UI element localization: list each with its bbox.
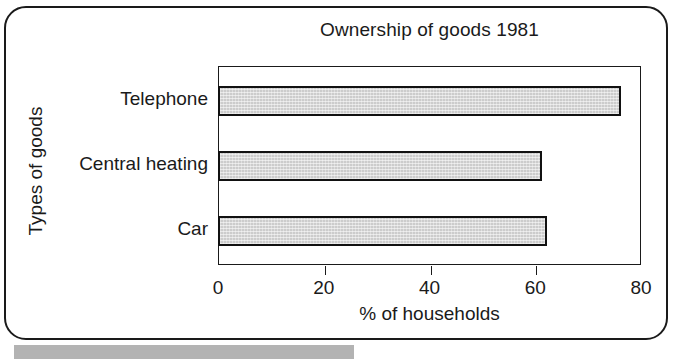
x-tick-label-40: 40 <box>400 277 460 299</box>
page-shadow-strip <box>14 345 354 359</box>
plot-area <box>218 66 641 265</box>
category-label-telephone: Telephone <box>8 88 208 110</box>
x-tick-label-0: 0 <box>188 277 248 299</box>
x-axis-title: % of households <box>218 303 641 325</box>
category-label-central-heating: Central heating <box>8 153 208 175</box>
category-label-car: Car <box>8 218 208 240</box>
x-tick-label-20: 20 <box>294 277 354 299</box>
x-tick-60 <box>536 266 537 275</box>
plot-inner <box>219 67 640 264</box>
chart-title: Ownership of goods 1981 <box>218 19 641 41</box>
chart-figure: Ownership of goods 1981 Types of goods %… <box>0 0 681 359</box>
bar-central-heating <box>218 151 542 181</box>
x-tick-label-80: 80 <box>611 277 671 299</box>
bar-telephone <box>218 86 621 116</box>
x-tick-label-60: 60 <box>505 277 565 299</box>
x-tick-40 <box>431 266 432 275</box>
x-tick-20 <box>325 266 326 275</box>
bar-car <box>218 216 547 246</box>
